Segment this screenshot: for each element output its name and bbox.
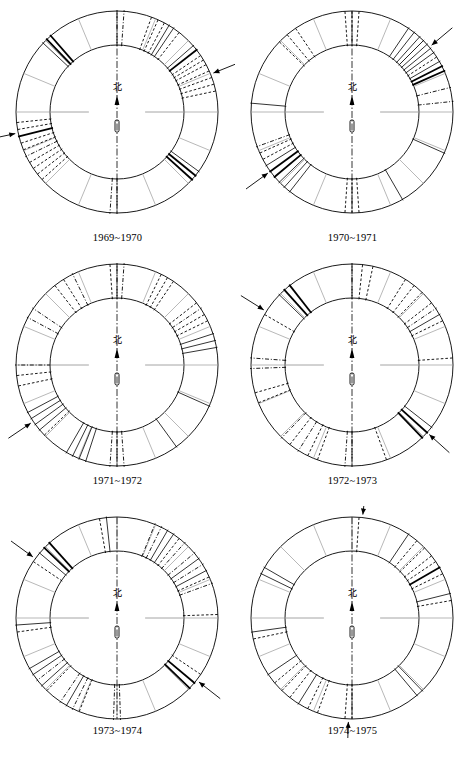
sector-divider [164, 547, 188, 571]
sector-divider [399, 412, 423, 436]
ring-mark-solid [267, 655, 297, 675]
panel-caption: 1972~1973 [235, 475, 470, 486]
ring-mark-solid [399, 40, 424, 65]
ring-mark-solid [385, 169, 403, 200]
ring-mark-dashed [345, 684, 348, 720]
sector-divider [378, 272, 391, 303]
arrow-top [361, 506, 366, 515]
ring-mark-dashed [16, 372, 52, 376]
sector-divider [259, 326, 290, 339]
ring-diagram-1970-1971: 北 [235, 0, 470, 232]
ring-mark-dashed [16, 119, 52, 123]
ring-mark-solid [403, 48, 431, 71]
sector-divider [24, 644, 55, 657]
ring-mark-dashed [274, 660, 302, 683]
sector-divider [281, 294, 305, 318]
sector-divider [313, 174, 326, 205]
ring-mark-dashed [281, 665, 306, 691]
ring-mark-dashdot [110, 431, 113, 467]
sector-divider [414, 391, 445, 404]
ring-mark-solid [250, 103, 286, 106]
ring-mark-dashed [387, 278, 406, 309]
ring-mark-dashdot [122, 263, 125, 299]
sector-divider [78, 525, 91, 556]
sector-divider [179, 326, 210, 339]
sector-divider [281, 41, 305, 65]
sector-divider [259, 391, 290, 404]
panel-1970-1971: 北 1970~1971 [235, 0, 470, 253]
ring-mark-dashed [393, 285, 415, 313]
ring-mark-dashed [175, 64, 207, 81]
ring-mark-solid [298, 674, 317, 705]
panel-1973-1974: 北 1973~1974 [0, 506, 235, 759]
ring-mark-dashdot [250, 367, 286, 368]
ring-mark-solid [154, 27, 174, 57]
ring-mark-dashed [148, 22, 165, 54]
sector-divider [281, 547, 305, 571]
north-label: 北 [113, 588, 122, 598]
ring-mark-solid [405, 52, 434, 73]
sector-divider [313, 525, 326, 556]
ring-mark-dashed [254, 383, 289, 393]
arrow-lower-right [199, 682, 220, 699]
sector-divider [378, 19, 391, 50]
ring-mark-dashdot [113, 684, 114, 720]
ring-mark-solid-thick [169, 49, 197, 71]
sector-divider [24, 326, 55, 339]
ring-mark-solid [170, 151, 199, 172]
sector-divider [143, 525, 156, 556]
panel-1971-1972: 北 1971~1972 [0, 253, 235, 506]
north-label: 北 [113, 82, 122, 92]
sector-divider [24, 391, 55, 404]
ring-mark-solid [85, 428, 96, 462]
ring-mark-dashed [17, 379, 52, 386]
sector-divider [281, 665, 305, 689]
compass-needle-icon [350, 348, 355, 358]
sector-divider [78, 272, 91, 303]
ring-mark-dashdot [281, 412, 306, 438]
sector-divider [24, 138, 55, 151]
ring-mark-dashed [252, 632, 287, 639]
sector-divider [399, 159, 423, 183]
panel-caption: 1971~1972 [0, 475, 235, 486]
ring-mark-solid [416, 593, 451, 602]
sector-divider [313, 19, 326, 50]
ring-diagram-1972-1973: 北 [235, 253, 470, 485]
sector-divider [378, 680, 391, 711]
ring-mark-dashed [295, 27, 315, 57]
sector-divider [143, 174, 156, 205]
ring-mark-dashdot [298, 421, 317, 452]
ring-mark-solid-thick [166, 156, 193, 180]
sector-divider [313, 272, 326, 303]
ring-mark-solid-thick [46, 39, 71, 65]
ring-chart-svg: 北 [235, 506, 470, 738]
sector-divider [143, 427, 156, 458]
ring-mark-dashed [110, 263, 113, 299]
ring-diagram-1974-1975: 北 [235, 506, 470, 738]
sector-divider [399, 294, 423, 318]
arrow-lower-left [8, 423, 30, 438]
sector-divider [414, 579, 445, 592]
ring-mark-dashdot [345, 431, 348, 467]
ring-mark-dashed [417, 600, 452, 606]
ring-mark-dashdot [110, 178, 113, 214]
sector-divider [78, 19, 91, 50]
panel-caption: 1974~1975 [235, 725, 470, 736]
ring-mark-solid [15, 623, 51, 626]
ring-mark-dashed [259, 139, 292, 154]
ring-mark-dashed [172, 655, 202, 675]
ring-mark-dashdot [119, 684, 120, 720]
ring-mark-solid [79, 426, 92, 459]
ring-diagram-1969-1970: 北 [0, 0, 235, 232]
sector-divider [378, 525, 391, 556]
sector-divider [78, 680, 91, 711]
compass-needle-icon [115, 95, 120, 105]
ring-mark-dashed [357, 516, 360, 552]
arrow-upper-left [11, 541, 33, 557]
ring-mark-solid-thick [168, 154, 196, 177]
ring-mark-dashed [279, 41, 305, 66]
ring-mark-solid [42, 42, 68, 67]
north-label: 北 [113, 335, 122, 345]
ring-mark-dashed [264, 314, 295, 332]
ring-mark-dashdot [250, 358, 286, 361]
